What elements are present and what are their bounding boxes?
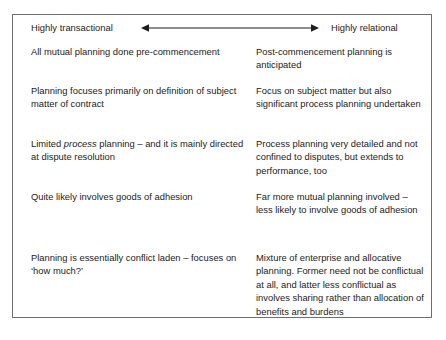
transactional-cell: Limited process planning – and it is mai… bbox=[31, 137, 249, 164]
comparison-row: Planning is essentially conflict laden –… bbox=[13, 251, 431, 335]
transactional-cell-emphasis: process bbox=[64, 138, 97, 149]
relational-cell: Focus on subject matter but also signifi… bbox=[256, 84, 426, 111]
relational-cell: Far more mutual planning involved – less… bbox=[256, 190, 426, 217]
relational-cell: Process planning very detailed and not c… bbox=[256, 137, 426, 177]
comparison-rows: All mutual planning done pre-commencemen… bbox=[13, 45, 431, 335]
relational-cell: Post-commencement planning is anticipate… bbox=[256, 45, 426, 72]
transactional-cell: Quite likely involves goods of adhesion bbox=[31, 190, 249, 203]
relational-cell: Mixture of enterprise and allocative pla… bbox=[256, 251, 426, 318]
spectrum-header-row: Highly transactional Highly relational bbox=[13, 15, 431, 45]
double-headed-horizontal-arrow-icon bbox=[141, 21, 319, 35]
comparison-row: Planning focuses primarily on definition… bbox=[13, 84, 431, 137]
transactional-cell: Planning focuses primarily on definition… bbox=[31, 84, 249, 111]
spectrum-right-pole-label: Highly relational bbox=[331, 21, 398, 34]
comparison-row: Limited process planning – and it is mai… bbox=[13, 137, 431, 190]
transactional-cell-text-before-emphasis: Limited bbox=[31, 138, 64, 149]
comparison-row: All mutual planning done pre-commencemen… bbox=[13, 45, 431, 84]
comparison-row: Quite likely involves goods of adhesion … bbox=[13, 190, 431, 251]
transactional-cell: All mutual planning done pre-commencemen… bbox=[31, 45, 249, 58]
spectrum-left-pole-label: Highly transactional bbox=[31, 21, 113, 34]
transactional-relational-spectrum-figure: Highly transactional Highly relational A… bbox=[12, 14, 432, 318]
transactional-cell: Planning is essentially conflict laden –… bbox=[31, 251, 249, 278]
